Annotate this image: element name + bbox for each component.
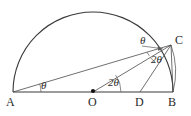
point-label-c: C <box>175 34 183 46</box>
semicircle-arc <box>13 12 173 92</box>
point-label-o: O <box>88 96 97 108</box>
angle-label-at-o: 2θ <box>108 77 119 88</box>
angle-arc-at-c-upper <box>147 52 149 56</box>
point-label-b: B <box>168 96 176 108</box>
center-dot-marker <box>91 89 95 93</box>
angle-label-at-a: θ <box>41 80 46 91</box>
angle-label-at-c-upper: θ <box>140 35 145 46</box>
angle-label-at-c-lower: 2θ <box>151 54 162 65</box>
geometry-figure: A O D B C θ 2θ 2θ θ <box>0 0 191 116</box>
point-label-a: A <box>6 96 15 108</box>
chord-cb-segment <box>171 45 173 92</box>
point-label-d: D <box>135 96 144 108</box>
